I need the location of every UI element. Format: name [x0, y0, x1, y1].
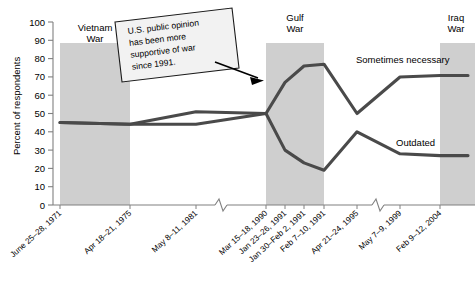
series-label-sometimes-necessary: Sometimes necessary	[356, 54, 450, 65]
chart-svg: Vietnam War Gulf War Iraq War 100 90	[0, 0, 475, 308]
band-label-gulf-line2: War	[286, 23, 303, 34]
y-axis-title: Percent of respondents	[11, 57, 22, 155]
band-label-iraq-line1: Iraq	[448, 12, 464, 23]
chart-figure: Vietnam War Gulf War Iraq War 100 90	[0, 0, 475, 308]
x-label-1: Apr 18–21, 1975	[82, 208, 133, 256]
y-label-60: 60	[34, 90, 45, 101]
x-label-2: May 8–11, 1981	[150, 209, 200, 255]
axis-break-2-icon	[372, 199, 384, 211]
series-label-outdated: Outdated	[396, 137, 435, 148]
y-axis	[48, 22, 53, 205]
y-label-80: 80	[34, 53, 45, 64]
y-label-30: 30	[34, 145, 45, 156]
y-label-40: 40	[34, 126, 45, 137]
x-tick-labels: June 25–28, 1971 Apr 18–21, 1975 May 8–1…	[9, 208, 444, 264]
band-label-gulf-line1: Gulf	[286, 12, 304, 23]
y-label-0: 0	[40, 200, 45, 211]
band-iraq-war	[440, 43, 475, 205]
y-label-70: 70	[34, 71, 45, 82]
band-label-vietnam-line1: Vietnam	[78, 22, 113, 33]
y-label-10: 10	[34, 181, 45, 192]
band-gulf-war	[266, 43, 324, 205]
callout-note: U.S. public opinion has been more suppor…	[115, 8, 264, 85]
band-label-iraq-line2: War	[447, 23, 464, 34]
callout-arrow-icon	[215, 62, 264, 85]
y-label-100: 100	[29, 17, 45, 28]
y-tick-labels: 100 90 80 70 60 50 40 30 20 10 0	[29, 17, 45, 211]
axis-break-1-icon	[215, 199, 227, 211]
y-label-20: 20	[34, 163, 45, 174]
band-label-vietnam-line2: War	[86, 33, 103, 44]
y-label-90: 90	[34, 35, 45, 46]
x-label-0: June 25–28, 1971	[9, 209, 64, 260]
y-label-50: 50	[34, 108, 45, 119]
